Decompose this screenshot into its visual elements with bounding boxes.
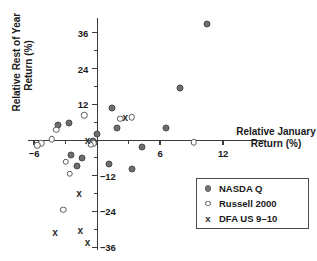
legend-label: Russell 2000 [219,198,277,209]
data-point-x-marker: x [75,226,85,236]
y-tick-label: 24 [58,64,88,75]
y-tick-label: −24 [100,206,130,217]
data-point-filled-circle [65,119,72,126]
x-axis-title: Relative January Return (%) [228,126,317,149]
data-point-filled-circle [105,160,112,167]
y-tick [92,247,97,248]
data-point-open-circle [62,158,69,165]
y-tick [94,86,98,87]
data-point-x-marker: x [83,238,93,248]
x-tick [222,140,223,145]
chart-legend: NASDA Q Russell 2000 x DFA US 9–10 [196,178,309,229]
data-point-filled-circle [163,124,170,131]
x-tick-label: 12 [208,148,238,159]
y-tick [92,68,97,69]
data-point-open-circle [81,112,88,119]
data-point-filled-circle [139,143,146,150]
y-tick [92,211,97,212]
y-tick-label: 12 [58,99,88,110]
data-point-filled-circle [94,131,101,138]
data-point-x-marker: x [50,228,60,238]
data-point-filled-circle [79,154,86,161]
x-tick [159,140,160,145]
x-tick-label: −6 [19,148,49,159]
y-tick [92,104,97,105]
data-point-x-marker: x [74,189,84,199]
data-point-x-marker: x [120,113,130,123]
y-axis-title-line2: Return (%) [22,20,34,112]
open-circle-icon [197,201,219,207]
x-axis-title-line1: Relative January [228,126,317,138]
data-point-open-circle [49,136,56,143]
y-tick [94,122,98,123]
data-point-filled-circle [113,125,120,132]
data-point-filled-circle [128,166,135,173]
data-point-filled-circle [67,152,74,159]
y-tick-label: −36 [100,242,130,253]
y-tick [94,193,98,194]
legend-label: DFA US 9–10 [219,213,277,224]
data-point-filled-circle [108,104,115,111]
legend-label: NASDA Q [219,183,262,194]
y-tick [92,32,97,33]
x-marker-icon: x [197,214,219,224]
y-tick [94,50,98,51]
x-axis-title-line2: Return (%) [228,138,317,150]
data-point-x-marker: x [83,136,93,146]
x-tick [65,140,66,144]
data-point-open-circle [53,127,60,134]
y-tick [94,229,98,230]
y-axis-title-line1: Relative Rest of Year [11,20,23,112]
data-point-filled-circle [176,84,183,91]
data-point-open-circle [60,207,67,214]
legend-item-nasdaq[interactable]: NASDA Q [197,181,308,196]
y-tick-label: −12 [100,171,130,182]
data-point-open-circle [34,142,41,149]
y-tick [92,175,97,176]
y-tick-label: 36 [58,28,88,39]
x-tick [128,140,129,144]
legend-item-russell-2000[interactable]: Russell 2000 [197,196,308,211]
data-point-filled-circle [74,163,81,170]
scatter-chart: −6612362412−12−24−36 Relative Rest of Ye… [0,0,317,261]
filled-circle-icon [197,185,219,192]
data-point-open-circle [66,170,73,177]
legend-item-dfa-us-9-10[interactable]: x DFA US 9–10 [197,211,308,226]
y-tick [94,157,98,158]
data-point-open-circle [190,139,197,146]
y-axis-title: Relative Rest of Year Return (%) [11,20,34,112]
data-point-filled-circle [204,20,211,27]
x-tick-label: 6 [145,148,175,159]
